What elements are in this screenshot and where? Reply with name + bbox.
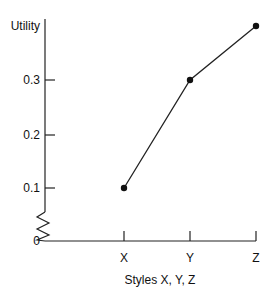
x-tick-label-Y: Y — [186, 251, 194, 265]
x-tick-label-X: X — [120, 251, 128, 265]
data-series — [121, 23, 259, 191]
y-tick-label-0.2: 0.2 — [23, 128, 40, 142]
data-point-Y — [187, 77, 193, 83]
y-axis-label: Utility — [11, 19, 40, 33]
data-point-X — [121, 185, 127, 191]
x-axis — [45, 231, 256, 241]
y-tick-label-0.3: 0.3 — [23, 73, 40, 87]
x-tick-label-Z: Z — [252, 251, 259, 265]
y-tick-label-0: 0 — [33, 234, 40, 248]
data-point-Z — [253, 23, 259, 29]
line-chart: Utility 0.3 0.2 0.1 0 X Y Z Styles X, Y,… — [0, 0, 271, 301]
series-line — [124, 26, 256, 188]
y-tick-label-0.1: 0.1 — [23, 181, 40, 195]
x-axis-label: Styles X, Y, Z — [125, 273, 196, 287]
